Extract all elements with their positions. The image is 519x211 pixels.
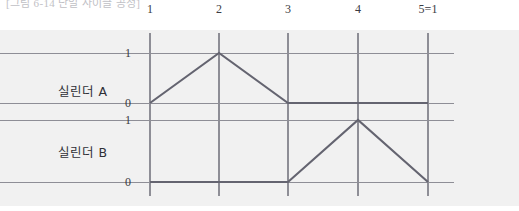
trace-group xyxy=(150,53,428,182)
x-tick-label-4: 4 xyxy=(355,2,361,17)
gridlines-group xyxy=(0,33,454,196)
trace-cylinder-a xyxy=(150,53,428,103)
x-tick-label-2: 2 xyxy=(216,2,222,17)
trace-cylinder-b xyxy=(150,120,428,182)
series-label-cylinder-b: 실린더 B xyxy=(58,142,107,161)
y-tick-a-one: 1 xyxy=(125,46,131,61)
y-tick-b-one: 1 xyxy=(125,113,131,128)
series-label-cylinder-a: 실린더 A xyxy=(58,81,107,100)
timing-diagram-panel: 12345=1 1010 실린더 A실린더 B xyxy=(0,30,519,206)
x-tick-label-1: 1 xyxy=(147,2,153,17)
figure-caption: [그림 6-14 단일 사이클 공정] xyxy=(6,0,140,10)
timing-diagram-svg xyxy=(0,30,519,206)
x-tick-label-5: 5=1 xyxy=(419,2,438,17)
y-tick-a-zero: 0 xyxy=(125,96,131,111)
x-tick-label-3: 3 xyxy=(285,2,291,17)
y-tick-b-zero: 0 xyxy=(125,175,131,190)
